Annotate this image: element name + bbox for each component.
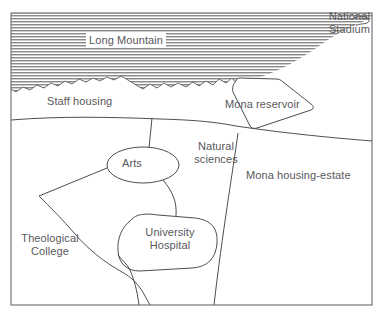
university-hospital-outline — [118, 214, 217, 271]
long-mountain-area — [11, 13, 372, 92]
arts-north-connector — [149, 118, 152, 148]
arts-area-outline — [107, 147, 179, 183]
mona-reservoir-outline — [233, 78, 314, 128]
map-canvas: Long Mountain NationalStadium Staff hous… — [0, 0, 384, 316]
mona-housing-estate-boundary — [214, 133, 238, 305]
map-vector-layer — [0, 0, 384, 316]
staff-housing-boundary — [11, 117, 236, 126]
arts-west-connector — [39, 168, 107, 196]
arts-hospital-connector — [163, 180, 176, 216]
